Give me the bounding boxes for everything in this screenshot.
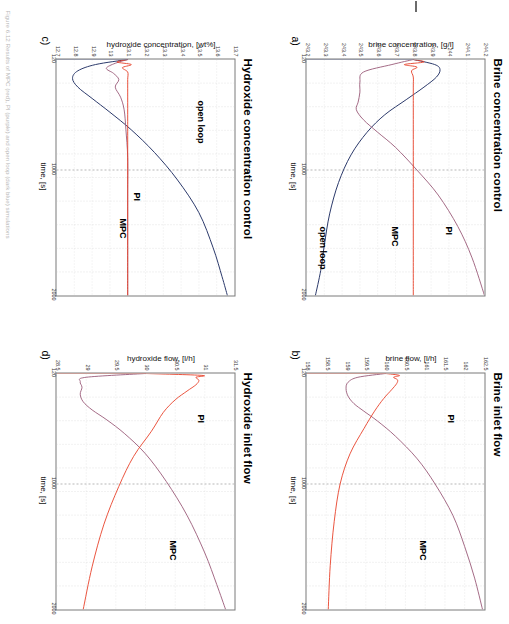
x-axis-ticks: 12010002000 <box>46 58 56 294</box>
y-tick-label: 244.2 <box>482 22 488 56</box>
y-tick-label: 31 <box>202 336 208 370</box>
y-tick-label: 243.8 <box>411 22 417 56</box>
series-annotation-mpc: MPC <box>389 226 399 246</box>
y-tick-label: 13.6 <box>214 22 220 56</box>
y-tick-label: 244 <box>446 22 452 56</box>
y-tick-label: 158.5 <box>324 336 330 370</box>
x-tick-label: 2000 <box>50 602 56 614</box>
y-tick-label: 243.3 <box>322 22 328 56</box>
y-tick-label: 13.1 <box>125 22 131 56</box>
x-axis-label: time, [s] <box>38 58 47 294</box>
y-tick-label: 158 <box>304 336 310 370</box>
x-tick-label: 1000 <box>300 163 306 175</box>
x-tick-label: 120 <box>50 54 56 63</box>
series-annotation-pi: PI <box>445 414 455 423</box>
y-tick-label: 13.2 <box>143 22 149 56</box>
x-tick-label: 2000 <box>300 288 306 300</box>
y-tick-label: 13 <box>107 22 113 56</box>
panel-title: Hydroxide inlet flow <box>241 372 253 483</box>
x-axis-label: time, [s] <box>38 372 47 608</box>
series-annotation-open_loop: open loop <box>195 100 205 143</box>
y-tick-label: 159 <box>344 336 350 370</box>
y-tick-label: 243.9 <box>429 22 435 56</box>
y-tick-label: 29 <box>84 336 90 370</box>
series-annotation-pi: PI <box>131 192 141 201</box>
plot-area <box>55 372 235 610</box>
y-tick-label: 243.6 <box>375 22 381 56</box>
series-annotation-mpc: MPC <box>117 218 127 238</box>
x-tick-label: 120 <box>50 368 56 377</box>
page-edge-mark <box>415 1 417 12</box>
y-tick-label: 28.5 <box>54 336 60 370</box>
y-tick-label: 160 <box>383 336 389 370</box>
y-axis-ticks: 28.52929.53030.53131.5 <box>57 334 235 370</box>
series-annotation-open_loop: open loop <box>317 226 327 269</box>
panel-b: Brine inlet flow158158.5159159.5160160.5… <box>267 320 503 620</box>
panel-letter: a) <box>289 36 301 45</box>
y-axis-ticks: 243.2243.3243.4243.5243.6243.7243.8243.9… <box>307 20 485 56</box>
x-tick-label: 2000 <box>300 602 306 614</box>
x-tick-label: 120 <box>300 54 306 63</box>
y-tick-label: 160.5 <box>403 336 409 370</box>
x-tick-label: 1000 <box>50 477 56 489</box>
figure-caption: Figure 6.12 Results of MPC (red), PI (pu… <box>2 10 11 570</box>
series-annotation-pi: PI <box>443 226 453 235</box>
plot-area <box>55 58 235 296</box>
y-tick-label: 12.7 <box>54 22 60 56</box>
y-axis-label: hydroxide flow, [l/h] <box>71 354 251 363</box>
y-tick-label: 161.5 <box>442 336 448 370</box>
y-tick-label: 12.8 <box>72 22 78 56</box>
y-tick-label: 243.7 <box>393 22 399 56</box>
x-tick-label: 1000 <box>300 477 306 489</box>
y-tick-label: 13.5 <box>196 22 202 56</box>
x-axis-ticks: 12010002000 <box>296 372 306 608</box>
panel-letter: c) <box>39 36 51 45</box>
y-axis-label: hydroxide concentration, [wt%] <box>71 40 251 49</box>
y-tick-label: 162.5 <box>482 336 488 370</box>
y-tick-label: 30 <box>143 336 149 370</box>
x-axis-ticks: 12010002000 <box>296 58 306 294</box>
y-tick-label: 243.2 <box>304 22 310 56</box>
y-tick-label: 30.5 <box>173 336 179 370</box>
y-tick-label: 13.4 <box>179 22 185 56</box>
y-tick-label: 243.5 <box>357 22 363 56</box>
x-axis-label: time, [s] <box>288 58 297 294</box>
x-axis-label: time, [s] <box>288 372 297 608</box>
y-axis-ticks: 12.712.812.91313.113.213.313.413.513.613… <box>57 20 235 56</box>
x-tick-label: 120 <box>300 368 306 377</box>
y-tick-label: 162 <box>462 336 468 370</box>
x-tick-label: 2000 <box>50 288 56 300</box>
plot-area <box>305 372 485 610</box>
panel-c: Hydroxide concentration control12.712.81… <box>17 6 253 306</box>
y-tick-label: 161 <box>423 336 429 370</box>
figure-page: Brine concentration control243.2243.3243… <box>0 0 509 624</box>
y-tick-label: 159.5 <box>363 336 369 370</box>
y-axis-label: brine concentration, [g/l] <box>321 40 501 49</box>
y-tick-label: 13.3 <box>161 22 167 56</box>
panel-title: Brine inlet flow <box>491 372 503 456</box>
y-tick-label: 13.7 <box>232 22 238 56</box>
figure-canvas: Brine concentration control243.2243.3243… <box>0 0 509 624</box>
y-tick-label: 31.5 <box>232 336 238 370</box>
plot-area <box>305 58 485 296</box>
y-axis-label: brine flow, [l/h] <box>321 354 501 363</box>
series-annotation-mpc: MPC <box>167 540 177 560</box>
series-annotation-mpc: MPC <box>417 540 427 560</box>
panel-title: Hydroxide concentration control <box>241 58 253 239</box>
panel-letter: d) <box>39 350 51 359</box>
y-tick-label: 12.9 <box>90 22 96 56</box>
panel-letter: b) <box>289 350 301 359</box>
panel-a: Brine concentration control243.2243.3243… <box>267 6 503 306</box>
series-annotation-pi: PI <box>195 414 205 423</box>
x-tick-label: 1000 <box>50 163 56 175</box>
y-tick-label: 244.1 <box>464 22 470 56</box>
panel-title: Brine concentration control <box>491 58 503 212</box>
y-axis-ticks: 158158.5159159.5160160.5161161.5162162.5 <box>307 334 485 370</box>
x-axis-ticks: 12010002000 <box>46 372 56 608</box>
panel-d: Hydroxide inlet flow28.52929.53030.53131… <box>17 320 253 620</box>
y-tick-label: 243.4 <box>340 22 346 56</box>
y-tick-label: 29.5 <box>113 336 119 370</box>
